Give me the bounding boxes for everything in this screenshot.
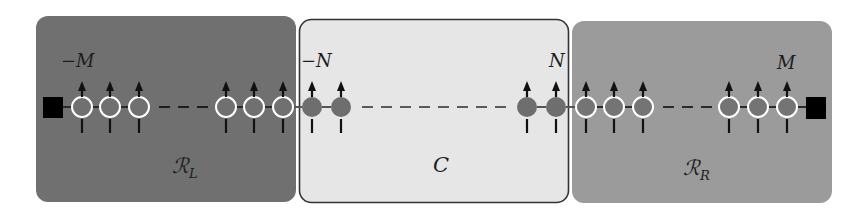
label-center-right-index: N [548,50,566,71]
site-circle [302,97,322,117]
site-circle [331,97,351,117]
site-circle [72,97,92,117]
label-right-region-subscript: R [699,168,710,183]
site-circle [633,97,653,117]
site-circle [576,97,596,117]
site-circle [719,97,739,117]
left-terminal-square [43,97,63,118]
label-center-left-index: −N [301,50,333,71]
site-circle [100,97,120,117]
site-circle [273,97,293,117]
site-circle [604,97,624,117]
site-circle [546,97,566,117]
label-left-region-main: ℛ [172,154,190,178]
site-circle [517,97,537,117]
label-right-end-index: M [776,52,796,73]
site-circle [777,97,797,117]
label-center-region: C [433,153,449,177]
site-circle [216,97,236,117]
label-right-region-main: ℛ [683,156,701,180]
label-left-end-index: −M [61,50,95,71]
spin-chain-diagram: −M −N N M ℛL C ℛR [0,0,866,220]
right-terminal-square [806,97,826,119]
label-left-region-subscript: L [188,166,198,181]
site-circle [244,97,264,117]
site-circle [129,97,149,117]
site-circle [748,97,768,117]
